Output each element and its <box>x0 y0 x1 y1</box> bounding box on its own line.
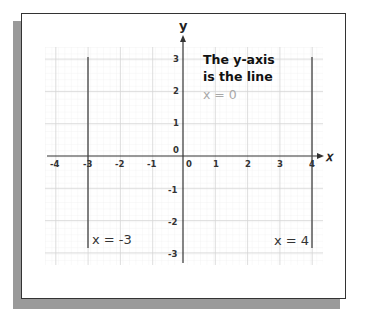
x-tick: -4 <box>50 159 60 169</box>
y-tick: 2 <box>173 86 179 96</box>
y-tick: -1 <box>168 185 178 195</box>
note-line-1: The y-axis <box>203 52 275 67</box>
y-tick: 1 <box>173 118 179 128</box>
x-tick: -2 <box>115 159 125 169</box>
note-line-2: is the line <box>203 69 273 84</box>
coordinate-plane: y 𝑥 -4 -3 -2 -1 0 1 2 3 4 3 2 1 0 -1 -2 … <box>0 0 368 315</box>
x-tick: -1 <box>147 159 157 169</box>
x-tick: -3 <box>83 159 93 169</box>
y-axis-label: y <box>179 18 188 33</box>
y-tick: 3 <box>173 54 179 64</box>
x-tick: 0 <box>186 159 192 169</box>
x-tick: 3 <box>277 159 283 169</box>
y-axis-arrow-icon <box>180 35 186 42</box>
x-tick: 2 <box>245 159 251 169</box>
note-equation: x = 0 <box>203 87 237 102</box>
x-axis-label: 𝑥 <box>325 149 334 164</box>
y-tick: -2 <box>168 217 178 227</box>
x-tick: 4 <box>309 159 315 169</box>
y-tick: -3 <box>168 249 178 259</box>
label-x-minus-3: x = -3 <box>92 232 132 247</box>
x-tick: 1 <box>213 159 219 169</box>
label-x-4: x = 4 <box>274 233 309 248</box>
y-tick: 0 <box>173 145 179 155</box>
